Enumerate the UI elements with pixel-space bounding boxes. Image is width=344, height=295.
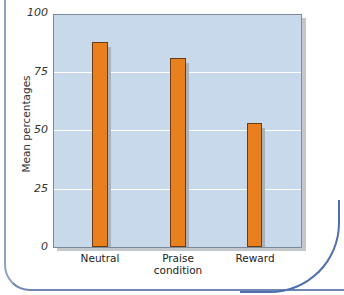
y-tick-100: 100 (20, 6, 48, 19)
y-tick-0: 0 (20, 240, 48, 253)
x-label-praise-line2: condition (138, 264, 218, 276)
x-label-reward-line1: Reward (215, 252, 295, 264)
x-label-praise-line1: Praise (138, 252, 218, 264)
bar-neutral (92, 42, 108, 247)
y-axis-line (53, 14, 54, 248)
x-label-neutral: Neutral (60, 252, 140, 264)
x-label-praise-condition: Praise condition (138, 252, 218, 276)
y-tick-25: 25 (20, 182, 48, 195)
x-label-neutral-line1: Neutral (60, 252, 140, 264)
bar-praise-condition (170, 58, 186, 247)
y-axis-label: Mean percentages (20, 75, 32, 172)
x-label-reward: Reward (215, 252, 295, 264)
x-axis-line (53, 247, 302, 248)
bar-reward (247, 123, 262, 247)
